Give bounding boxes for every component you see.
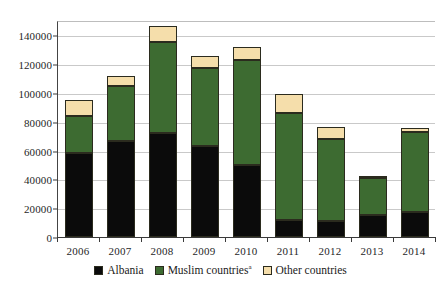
legend-item[interactable]: Muslim countriesa	[155, 264, 252, 276]
legend-swatch-icon	[263, 266, 272, 275]
stacked-bar-chart: 020000400006000080000100000120000140000 …	[0, 0, 441, 292]
bar-segment[interactable]	[317, 221, 345, 237]
x-axis-label-2012: 2012	[307, 245, 353, 257]
bar-group[interactable]	[149, 21, 177, 237]
plot-area: 020000400006000080000100000120000140000	[57, 21, 435, 237]
y-axis-tick-label: 120000	[18, 59, 58, 71]
y-axis-tick-label: 100000	[18, 88, 58, 100]
bar-segment[interactable]	[233, 60, 261, 165]
bar-segment[interactable]	[275, 113, 303, 220]
legend-swatch-icon	[94, 266, 103, 275]
bar-segment[interactable]	[233, 165, 261, 237]
bar-segment[interactable]	[401, 132, 429, 212]
y-axis-tick-label: 40000	[24, 174, 58, 186]
bar-segment[interactable]	[107, 141, 135, 237]
legend-item-label: Muslim countriesa	[168, 264, 252, 276]
bar-segment[interactable]	[233, 47, 261, 60]
legend-item-label: Albania	[107, 264, 143, 276]
chart-legend: AlbaniaMuslim countriesaOther countries	[0, 264, 441, 276]
y-axis-tick-label: 80000	[24, 117, 58, 129]
x-axis-label-2009: 2009	[181, 245, 227, 257]
bar-segment[interactable]	[275, 94, 303, 113]
bar-segment[interactable]	[65, 153, 93, 237]
y-axis-tick-label: 20000	[24, 203, 58, 215]
bar-group[interactable]	[107, 21, 135, 237]
bar-segment[interactable]	[107, 86, 135, 141]
bar-group[interactable]	[191, 21, 219, 237]
bar-segment[interactable]	[275, 220, 303, 237]
bar-segment[interactable]	[107, 76, 135, 86]
legend-item[interactable]: Other countries	[263, 264, 347, 276]
y-axis-tick-label: 60000	[24, 146, 58, 158]
bar-segment[interactable]	[191, 146, 219, 237]
legend-item[interactable]: Albania	[94, 264, 143, 276]
bar-segment[interactable]	[359, 178, 387, 215]
x-axis-label-2011: 2011	[265, 245, 311, 257]
bar-group[interactable]	[275, 21, 303, 237]
legend-swatch-icon	[155, 266, 164, 275]
bar-segment[interactable]	[359, 215, 387, 237]
bar-segment[interactable]	[401, 212, 429, 237]
bar-segment[interactable]	[191, 56, 219, 68]
y-axis-tick-label: 140000	[18, 30, 58, 42]
bar-group[interactable]	[317, 21, 345, 237]
bar-group[interactable]	[401, 21, 429, 237]
bar-segment[interactable]	[401, 128, 429, 132]
bar-segment[interactable]	[191, 68, 219, 146]
legend-item-label: Other countries	[276, 264, 347, 276]
x-axis-label-2013: 2013	[349, 245, 395, 257]
bar-group[interactable]	[233, 21, 261, 237]
legend-footnote-marker: a	[248, 263, 251, 271]
x-axis-label-2008: 2008	[139, 245, 185, 257]
bar-segment[interactable]	[149, 42, 177, 133]
bar-segment[interactable]	[149, 133, 177, 237]
x-axis-label-2007: 2007	[97, 245, 143, 257]
x-axis-label-2014: 2014	[391, 245, 437, 257]
bar-segment[interactable]	[359, 176, 387, 178]
bar-group[interactable]	[65, 21, 93, 237]
bars-container	[58, 22, 435, 237]
bar-segment[interactable]	[65, 116, 93, 153]
bar-segment[interactable]	[317, 127, 345, 139]
x-axis-label-2006: 2006	[55, 245, 101, 257]
bar-group[interactable]	[359, 21, 387, 237]
bar-segment[interactable]	[149, 26, 177, 42]
x-axis-label-2010: 2010	[223, 245, 269, 257]
bar-segment[interactable]	[65, 100, 93, 116]
bar-segment[interactable]	[317, 139, 345, 221]
x-axis-line	[57, 237, 436, 238]
